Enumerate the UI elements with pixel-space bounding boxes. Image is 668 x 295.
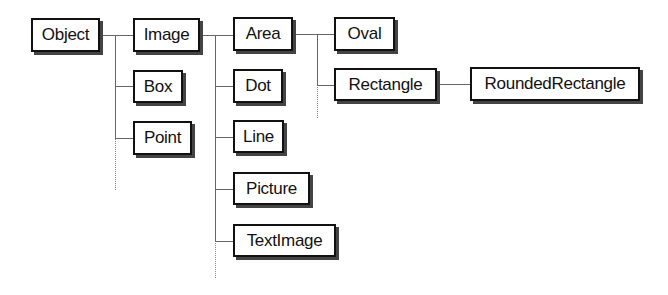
node-textimage: TextImage [233,224,336,257]
connector-image-trunk [215,35,216,241]
connector-image-picture [215,189,233,190]
node-line: Line [233,120,284,153]
node-box: Box [133,70,183,103]
connector-area-oval [293,34,334,35]
node-object: Object [31,18,100,52]
connector-area-trunk [317,34,318,85]
connector-rectangle-roundedrectangle [437,84,470,85]
node-picture: Picture [233,172,310,205]
connector-object-box [115,86,133,87]
node-rectangle: Rectangle [334,68,437,101]
connector-area-more-dotted [317,85,318,118]
connector-image-textimage [215,241,233,242]
node-area: Area [233,17,293,51]
node-roundedrectangle: RoundedRectangle [470,67,640,101]
connector-image-more-dotted [215,241,216,278]
connector-image-dot [215,86,233,87]
connector-area-rectangle [317,85,334,86]
node-oval: Oval [334,17,395,51]
connector-object-more-dotted [115,138,116,190]
connector-object-image [100,35,133,36]
connector-image-area [200,35,233,36]
node-dot: Dot [233,69,283,103]
connector-image-line [215,137,233,138]
node-point: Point [133,121,192,155]
node-image: Image [133,18,200,52]
connector-object-point [115,138,133,139]
